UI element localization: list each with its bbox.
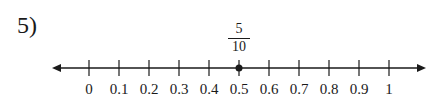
left-arrow-icon: [52, 64, 61, 72]
tick-label: 0.5: [230, 82, 249, 97]
tick-label: 0.6: [260, 82, 279, 97]
tick-label: 0.1: [110, 82, 129, 97]
tick-label: 0.7: [290, 82, 309, 97]
number-line-problem: 5) 5 10 00.10.20.30.40.50.60.70.80.91: [0, 0, 438, 100]
tick-label: 0.9: [350, 82, 369, 97]
tick-label: 0.2: [140, 82, 159, 97]
tick-label: 0.3: [170, 82, 189, 97]
tick-label: 0.8: [320, 82, 339, 97]
tick-label: 0.4: [200, 82, 219, 97]
plotted-point: [236, 65, 243, 72]
tick-label: 1: [385, 82, 393, 97]
right-arrow-icon: [417, 64, 426, 72]
tick-label: 0: [85, 82, 93, 97]
number-line: [0, 0, 438, 100]
